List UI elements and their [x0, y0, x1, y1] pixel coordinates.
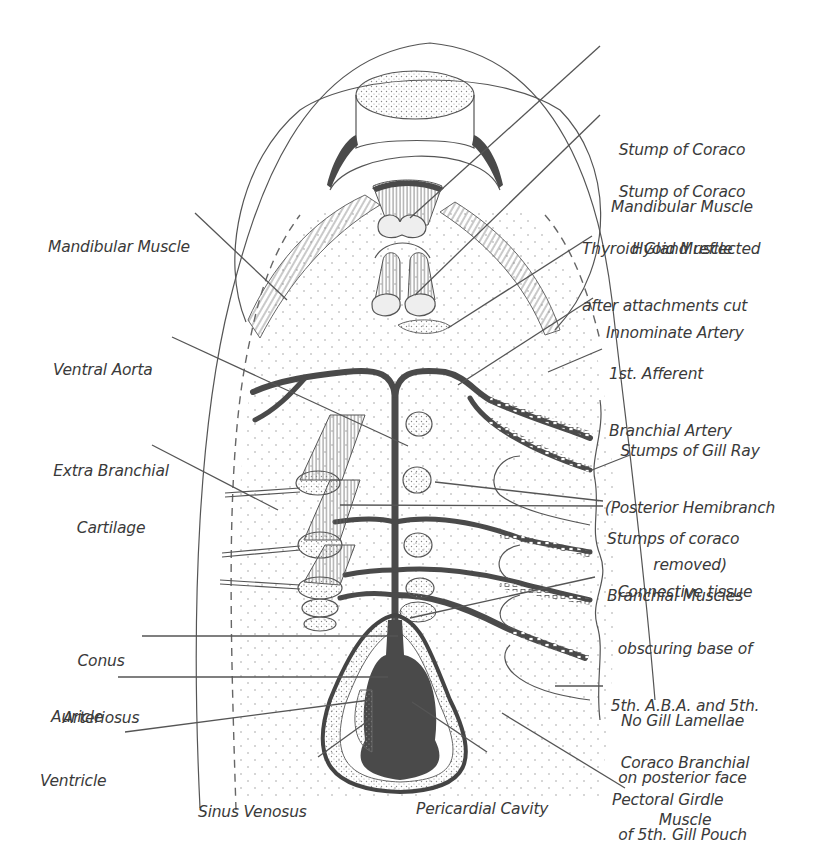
- label-ventricle: Ventricle: [40, 734, 106, 810]
- label-line: Stump of Coraco: [592, 183, 772, 202]
- label-pericardial-cavity: Pericardial Cavity: [416, 762, 548, 838]
- label-line: No Gill Lamellae: [600, 712, 765, 731]
- label-line: Auricle: [51, 708, 103, 727]
- label-ventral-aorta: Ventral Aorta: [53, 323, 153, 399]
- label-extra-branchial-cartilage: Extra Branchial Cartilage: [46, 424, 176, 557]
- label-line: Ventral Aorta: [53, 361, 153, 380]
- label-line: 1st. Afferent: [609, 365, 732, 384]
- label-line: Pectoral Girdle: [612, 791, 723, 810]
- label-line: Stumps of Gill Ray: [590, 442, 790, 461]
- label-line: Connective tissue: [590, 583, 780, 602]
- label-pectoral-girdle: Pectoral Girdle: [612, 753, 723, 829]
- label-line: Mandibular Muscle: [48, 238, 190, 257]
- label-line: Sinus Venosus: [198, 803, 307, 822]
- label-line: Ventricle: [40, 772, 106, 791]
- label-line: Cartilage: [46, 519, 176, 538]
- label-sinus-venosus: Sinus Venosus: [198, 765, 307, 841]
- label-line: Pericardial Cavity: [416, 800, 548, 819]
- label-line: obscuring base of: [590, 640, 780, 659]
- label-line: Extra Branchial: [46, 462, 176, 481]
- label-line: Thyroid Gland reflected: [582, 240, 760, 259]
- label-line: Conus: [56, 652, 146, 671]
- label-mandibular-muscle: Mandibular Muscle: [48, 200, 190, 276]
